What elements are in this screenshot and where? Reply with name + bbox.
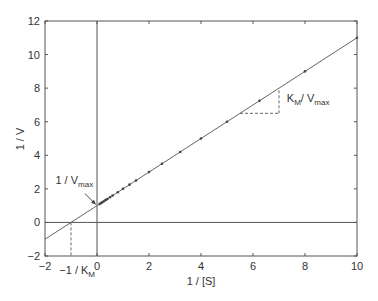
y-tick-label: 2 (34, 183, 40, 195)
vmax-intercept-label: 1 / Vmax (55, 174, 93, 189)
data-point (226, 120, 229, 123)
km-intercept-label: −1 / KM (59, 264, 95, 279)
data-point (128, 183, 131, 186)
y-tick-label: −2 (27, 250, 40, 262)
tick-labels: −20246810−2024681012 (27, 15, 363, 272)
data-point (200, 137, 203, 140)
y-tick-label: 0 (34, 216, 40, 228)
x-tick-label: 4 (198, 260, 204, 272)
slope-label: KM/ Vmax (287, 92, 330, 107)
data-point (106, 198, 109, 201)
y-tick-label: 6 (34, 116, 40, 128)
plot-area (45, 21, 358, 256)
data-point (109, 196, 112, 199)
x-tick-label: 8 (302, 260, 308, 272)
lineweaver-burk-chart: −20246810−2024681012 1 / [S] 1 / V 1 / V… (0, 0, 378, 301)
y-axis-label: 1 / V (14, 127, 26, 150)
y-tick-label: 12 (28, 15, 40, 27)
data-point (111, 194, 114, 197)
y-tick-label: 4 (34, 149, 40, 161)
y-tick-label: 10 (28, 49, 40, 61)
x-tick-label: 6 (250, 260, 256, 272)
data-point (258, 99, 261, 102)
x-tick-label: 10 (351, 260, 363, 272)
x-axis-label: 1 / [S] (187, 275, 216, 287)
y-tick-label: 8 (34, 82, 40, 94)
data-point (148, 171, 151, 174)
x-tick-label: −2 (39, 260, 52, 272)
data-point (304, 70, 307, 73)
data-point (122, 188, 125, 191)
data-point (135, 179, 138, 182)
data-point (179, 151, 182, 154)
data-point (117, 191, 120, 194)
x-tick-label: 2 (146, 260, 152, 272)
data-point (161, 162, 164, 165)
annotations: 1 / Vmax−1 / KMKM/ Vmax (55, 88, 329, 279)
